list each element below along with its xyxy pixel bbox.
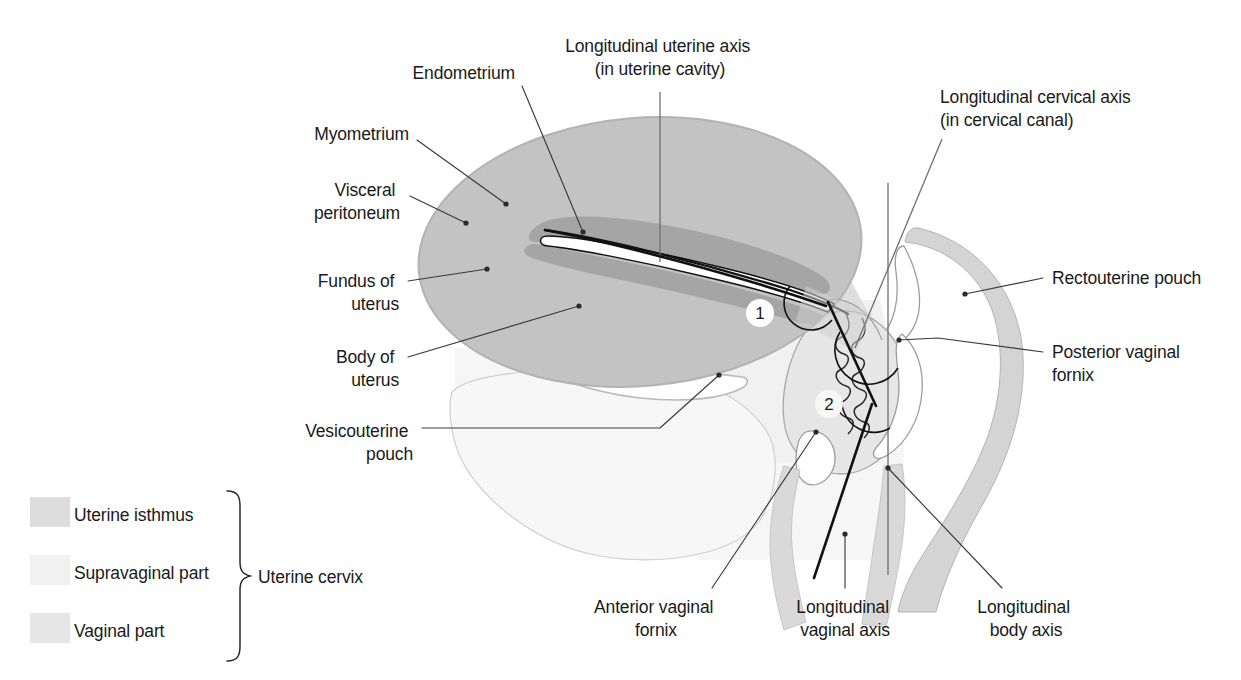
label-longitudinal-cervical-axis: Longitudinal cervical axis (in cervical … — [940, 87, 1135, 130]
label-visceral-peritoneum: Visceral peritoneum — [314, 180, 400, 223]
leader-dot-visceral-peritoneum — [463, 220, 468, 225]
anterior-vaginal-fornix — [796, 431, 835, 485]
legend-swatch-uterine-isthmus — [30, 497, 70, 527]
leader-dot-posterior-vaginal-fornix — [896, 337, 901, 342]
legend-label-uterine-isthmus: Uterine isthmus — [74, 505, 194, 525]
label-longitudinal-body-axis: Longitudinal body axis — [977, 597, 1074, 640]
leader-dot-rectouterine-pouch — [962, 291, 967, 296]
uterus-sagittal-diagram: 1 2 Endometrium Longitudinal uterine axi… — [0, 0, 1241, 680]
leader-dot-anterior-vaginal-fornix — [813, 429, 818, 434]
label-anterior-vaginal-fornix: Anterior vaginal fornix — [594, 597, 718, 640]
bladder — [450, 370, 775, 560]
label-endometrium: Endometrium — [413, 63, 515, 83]
legend-label-supravaginal-part: Supravaginal part — [74, 563, 209, 583]
leader-dot-vesicouterine-pouch — [716, 372, 721, 377]
label-vesicouterine-pouch: Vesicouterine pouch — [305, 421, 413, 464]
leader-dot-body-of-uterus — [576, 303, 581, 308]
label-rectouterine-pouch: Rectouterine pouch — [1052, 268, 1201, 288]
label-myometrium: Myometrium — [314, 124, 409, 144]
legend-bracket-label: Uterine cervix — [258, 567, 363, 587]
legend-group: Uterine isthmus Supravaginal part Vagina… — [30, 491, 363, 661]
label-posterior-vaginal-fornix: Posterior vaginal fornix — [1052, 342, 1185, 385]
leader-dot-longitudinal-body-axis — [885, 465, 890, 470]
label-longitudinal-uterine-axis: Longitudinal uterine axis (in uterine ca… — [565, 36, 755, 79]
legend-swatch-supravaginal-part — [30, 555, 70, 585]
anatomical-figure: 1 2 Endometrium Longitudinal uterine axi… — [0, 0, 1241, 680]
label-body-of-uterus: Body of uterus — [336, 347, 399, 390]
leader-dot-fundus — [484, 266, 489, 271]
marker-2-label: 2 — [824, 395, 833, 414]
leader-dot-longitudinal-vaginal-axis — [842, 531, 847, 536]
anatomy-group — [407, 99, 1023, 630]
legend-label-vaginal-part: Vaginal part — [74, 621, 165, 641]
legend-swatch-vaginal-part — [30, 613, 70, 643]
marker-1-label: 1 — [755, 304, 764, 323]
leader-dot-myometrium — [503, 201, 508, 206]
leader-dot-endometrium — [580, 229, 585, 234]
label-fundus-of-uterus: Fundus of uterus — [318, 271, 400, 314]
legend-bracket — [227, 491, 250, 661]
